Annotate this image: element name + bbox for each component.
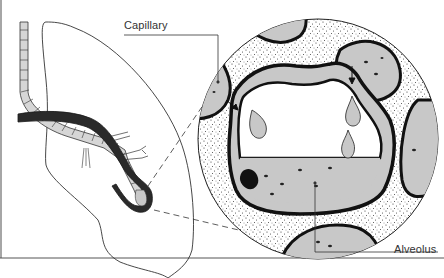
diagram-frame <box>0 0 444 278</box>
lung-alveolus-diagram <box>0 0 444 278</box>
magnified-circle <box>192 5 440 262</box>
pulmonary-vessel <box>18 111 152 212</box>
alveolus-label: Alveolus <box>394 243 436 255</box>
terminal-alveolus <box>135 190 147 206</box>
capillary-label: Capillary <box>124 19 168 31</box>
